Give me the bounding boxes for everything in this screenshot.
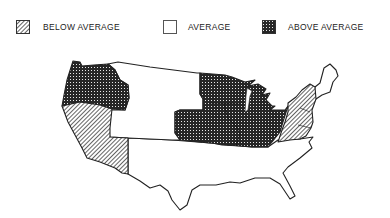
us-map: [0, 0, 390, 218]
region-south: [128, 137, 313, 210]
